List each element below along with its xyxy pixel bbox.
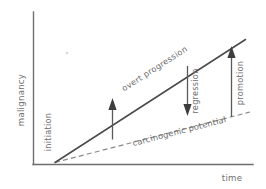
overt-progression-line xyxy=(55,40,246,163)
overt-progression-label: overt progression xyxy=(120,44,189,94)
carcinogenesis-figure: malignancy time initiation overt progres… xyxy=(0,0,266,189)
x-axis-label: time xyxy=(222,173,242,183)
promotion-arrow-head xyxy=(227,46,235,58)
y-axis-label: malignancy xyxy=(16,74,26,126)
figure-canvas: malignancy time initiation overt progres… xyxy=(0,0,266,189)
initiation-arrow-head xyxy=(108,98,116,110)
promotion-label: promotion xyxy=(235,61,245,105)
scan-speck xyxy=(66,52,69,55)
carcinogenic-potential-label: carcinogenic potential xyxy=(131,114,227,148)
initiation-arrow xyxy=(108,98,116,140)
regression-label: regression xyxy=(190,68,200,113)
initiation-label: initiation xyxy=(43,113,53,151)
